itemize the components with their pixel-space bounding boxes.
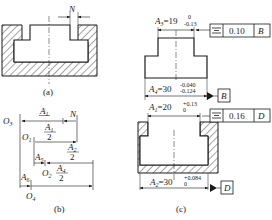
caption-c: (c) — [176, 204, 186, 214]
gap-label-n: N — [68, 4, 76, 14]
svg-text:O3: O3 — [3, 116, 13, 127]
svg-text:A2=30: A2=30 — [149, 177, 173, 188]
chain-n-label: N — [69, 109, 77, 119]
svg-text:0.16: 0.16 — [229, 111, 245, 121]
svg-text:2: 2 — [70, 152, 75, 162]
caption-b: (b) — [54, 204, 65, 214]
svg-text:2: 2 — [47, 132, 52, 142]
svg-text:B: B — [258, 26, 264, 36]
svg-text:O4: O4 — [26, 191, 36, 202]
svg-text:A6: A6 — [20, 172, 30, 183]
svg-text:D: D — [257, 111, 265, 121]
svg-text:A4=30: A4=30 — [148, 84, 172, 95]
svg-text:A1=20: A1=20 — [148, 102, 172, 113]
technical-drawing: N (a) A1 N O3 A1 2 O1 A2 2 A5 O2 A4 — [0, 0, 272, 220]
datum-d: D — [223, 183, 231, 193]
slot-cavity-a — [14, 25, 88, 62]
svg-text:-0.13: -0.13 — [184, 21, 197, 27]
caption-a: (a) — [43, 87, 53, 97]
panel-a: N (a) — [2, 4, 97, 97]
svg-text:0.10: 0.10 — [229, 26, 245, 36]
svg-text:A5: A5 — [34, 152, 44, 163]
tolerance-frame-d: 0.16 D — [210, 109, 270, 122]
svg-text:A3=19: A3=19 — [154, 16, 178, 27]
panel-b: A1 N O3 A1 2 O1 A2 2 A5 O2 A4 2 A6 O4 (b… — [3, 106, 93, 214]
svg-text:O1: O1 — [22, 132, 32, 143]
svg-text:0: 0 — [184, 181, 187, 187]
datum-b: B — [221, 91, 227, 101]
panel-c-lower: A1=20 +0.13 0 0.16 D D A2=30 +0.084 0 (c… — [138, 101, 270, 214]
svg-text:-0.124: -0.124 — [180, 88, 196, 94]
svg-text:0: 0 — [188, 14, 191, 20]
svg-text:2: 2 — [59, 173, 64, 183]
svg-text:0: 0 — [183, 107, 186, 113]
tolerance-frame-b: 0.10 B — [210, 24, 270, 37]
panel-c-upper: A3=19 0 -0.13 0.10 B B A4=30 -0.040 -0.1… — [145, 14, 270, 102]
svg-text:O2: O2 — [42, 168, 52, 179]
